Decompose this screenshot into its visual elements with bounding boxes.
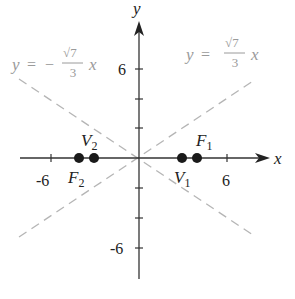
svg-text:3: 3 <box>232 55 239 70</box>
svg-text:y: y <box>184 45 194 64</box>
asymptote-label-right: y = √7 3 x <box>184 35 259 70</box>
svg-text:x: x <box>250 45 259 64</box>
y-axis <box>134 21 144 279</box>
x-axis-label: x <box>273 149 282 168</box>
label-f1: F1 <box>195 131 212 153</box>
asymptote-label-left: y = − √7 3 x <box>10 45 97 80</box>
vertex-v2 <box>89 153 99 163</box>
x-tick-label-neg6: -6 <box>36 172 49 189</box>
label-v2: V2 <box>81 131 97 153</box>
y-tick-label-6: 6 <box>118 61 126 78</box>
svg-text:√7: √7 <box>63 45 77 60</box>
svg-text:3: 3 <box>70 65 77 80</box>
x-axis <box>20 153 270 163</box>
svg-text:x: x <box>88 55 97 74</box>
focus-f2 <box>74 153 84 163</box>
svg-text:√7: √7 <box>225 35 239 50</box>
label-v1: V1 <box>174 168 190 190</box>
svg-text:y: y <box>10 55 20 74</box>
y-tick-label-neg6: -6 <box>110 240 123 257</box>
hyperbola-diagram: x y -6 6 6 -6 V2 F2 V1 F1 y = − √7 3 x y… <box>0 0 295 299</box>
vertex-v1 <box>177 153 187 163</box>
svg-text:−: − <box>45 56 54 73</box>
y-axis-label: y <box>131 0 141 18</box>
focus-f1 <box>192 153 202 163</box>
svg-text:=: = <box>27 56 36 73</box>
svg-text:=: = <box>201 46 210 63</box>
label-f2: F2 <box>67 168 84 190</box>
x-tick-label-6: 6 <box>222 172 230 189</box>
